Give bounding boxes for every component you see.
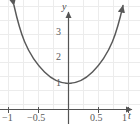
x-tick-label-0point5: 0.5: [90, 113, 103, 123]
x-tick-label-minus-0point5: −0.5: [27, 113, 45, 123]
graph-figure: y t 3 2 1 −1 −0.5 0.5 1: [0, 0, 140, 127]
y-tick-label-1: 1: [47, 78, 61, 88]
x-tick-label-1: 1: [122, 113, 127, 123]
grid-lines: [0, 0, 140, 110]
graph-canvas: [0, 0, 140, 127]
x-axis-label: t: [128, 111, 131, 121]
x-tick-label-minus-1: −1: [2, 113, 13, 123]
y-tick-label-2: 2: [47, 52, 61, 62]
y-tick-label-3: 3: [47, 27, 61, 37]
y-axis-label: y: [62, 2, 66, 12]
